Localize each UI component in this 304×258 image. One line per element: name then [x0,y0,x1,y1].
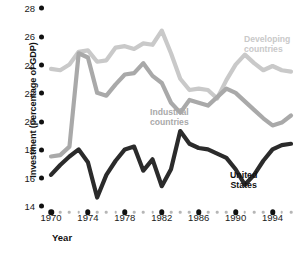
annotation-developing-line2: countries [244,45,290,55]
chart-figure: Investment (percentage of GDP) 141618202… [0,0,304,258]
x-tick-label-1974: 1974 [77,212,98,223]
y-tick-marker-dot-icon [39,147,44,152]
y-tick-label: 18 [19,144,35,155]
y-tick-marker-dot-icon [39,91,44,96]
x-tick-label-1982: 1982 [151,212,172,223]
y-tick-label: 26 [19,31,35,42]
y-tick-14: 14 [19,201,44,212]
line-industrial-countries [51,53,291,156]
annotation-developing-countries: Developing countries [244,35,290,54]
x-axis-ticks: 1970197419781982198619901994 [44,212,298,228]
y-tick-label: 22 [19,87,35,98]
annotation-industrial-line2: countries [150,118,189,128]
plot-area: 1416182022242628 Developing countries In… [44,8,298,206]
y-tick-label: 20 [19,116,35,127]
y-tick-marker-dot-icon [39,63,44,68]
annotation-us-line2: States [230,181,257,191]
y-tick-22: 22 [19,87,44,98]
x-tick-label-1986: 1986 [188,212,209,223]
y-tick-label: 28 [19,3,35,14]
y-tick-marker-dot-icon [39,119,44,124]
y-tick-label: 16 [19,172,35,183]
x-tick-label-1990: 1990 [225,212,246,223]
y-tick-label: 24 [19,59,35,70]
x-tick-label-1970: 1970 [40,212,61,223]
y-tick-20: 20 [19,116,44,127]
y-tick-28: 28 [19,3,44,14]
annotation-industrial-countries: Industrial countries [150,108,189,127]
y-tick-16: 16 [19,172,44,183]
x-tick-label-1978: 1978 [114,212,135,223]
y-tick-26: 26 [19,31,44,42]
y-tick-24: 24 [19,59,44,70]
y-tick-label: 14 [19,201,35,212]
y-tick-18: 18 [19,144,44,155]
y-tick-marker-dot-icon [39,176,44,181]
x-axis-title: Year [52,232,72,243]
y-tick-marker-dot-icon [39,6,44,11]
annotation-united-states: United States [230,171,257,191]
x-tick-label-1994: 1994 [262,212,283,223]
y-tick-marker-dot-icon [39,34,44,39]
